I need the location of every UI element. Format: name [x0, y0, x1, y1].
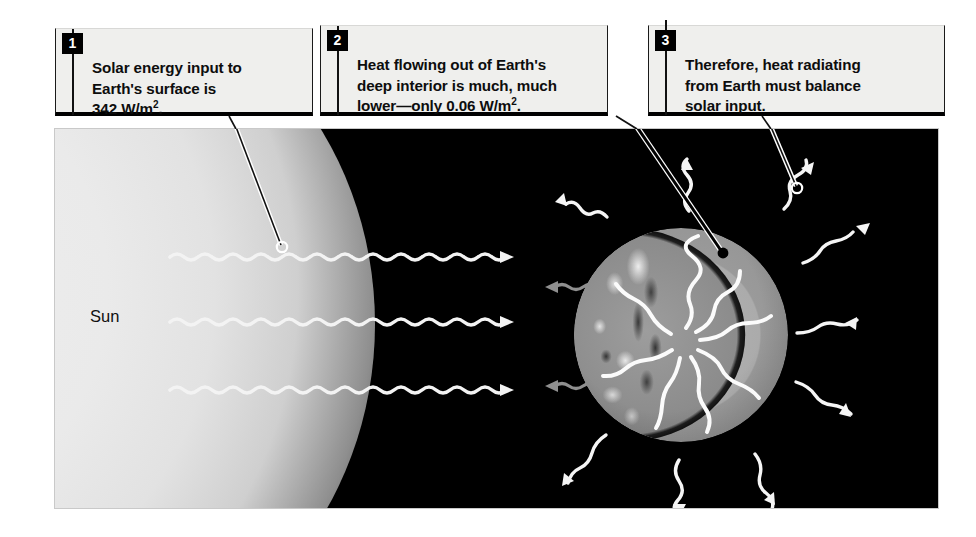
callout-badge-3: 3: [655, 30, 676, 51]
leader-stub-2: [616, 116, 637, 129]
callout-text-2: Heat flowing out of Earth's deep interio…: [357, 35, 597, 116]
earth-radiation-rays: [566, 159, 857, 508]
ray-overlay: [55, 129, 938, 508]
callout-text-3: Therefore, heat radiating from Earth mus…: [685, 35, 934, 116]
callout-box-1: Solar energy input to Earth's surface is…: [55, 28, 313, 116]
callout-text-1: Solar energy input to Earth's surface is…: [92, 38, 302, 119]
callout-box-3: Therefore, heat radiating from Earth mus…: [648, 25, 945, 116]
callout-box-2: Heat flowing out of Earth's deep interio…: [320, 25, 608, 116]
leader-stub-3: [762, 116, 771, 129]
callout-badge-1: 1: [62, 33, 83, 54]
callout-badge-2: 2: [327, 30, 348, 51]
solar-ray-arrowheads: [500, 251, 514, 396]
diagram-artwork-panel: Sun: [55, 129, 938, 508]
solar-input-rays: [170, 254, 506, 393]
